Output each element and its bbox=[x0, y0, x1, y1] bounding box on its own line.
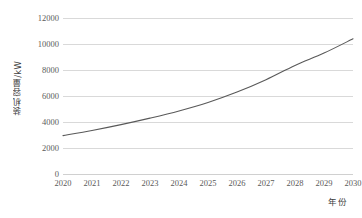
x-axis-tick-label: 2028 bbox=[287, 178, 304, 188]
plot-area bbox=[63, 18, 353, 174]
x-axis-tick-label: 2023 bbox=[142, 178, 159, 188]
x-axis-tick-label: 2026 bbox=[229, 178, 246, 188]
y-axis-title: 装机容量/kW bbox=[9, 38, 27, 138]
x-axis-tick-labels: 2020202120222023202420252026202720282029… bbox=[63, 178, 353, 192]
x-axis-tick-label: 2027 bbox=[258, 178, 275, 188]
y-axis-tick-label: 12000 bbox=[38, 13, 59, 23]
y-axis-tick-label: 6000 bbox=[42, 91, 59, 101]
y-axis-tick-labels: 020004000600080001000012000 bbox=[26, 12, 62, 180]
y-axis-tick-label: 8000 bbox=[42, 65, 59, 75]
y-axis-tick-label: 4000 bbox=[42, 117, 59, 127]
x-axis-tick-label: 2021 bbox=[84, 178, 101, 188]
series-line-installed-capacity bbox=[63, 18, 353, 174]
x-axis-tick-label: 2020 bbox=[55, 178, 72, 188]
x-axis-title: 年份 bbox=[328, 195, 347, 207]
x-axis-tick-label: 2030 bbox=[345, 178, 362, 188]
x-axis-tick-label: 2022 bbox=[113, 178, 130, 188]
y-axis-tick-label: 2000 bbox=[42, 143, 59, 153]
series-path bbox=[63, 39, 353, 136]
x-axis-tick-label: 2025 bbox=[200, 178, 217, 188]
x-axis-tick-label: 2029 bbox=[316, 178, 333, 188]
x-axis-tick-label: 2024 bbox=[171, 178, 188, 188]
gridline bbox=[63, 174, 353, 175]
y-axis-tick-label: 10000 bbox=[38, 39, 59, 49]
